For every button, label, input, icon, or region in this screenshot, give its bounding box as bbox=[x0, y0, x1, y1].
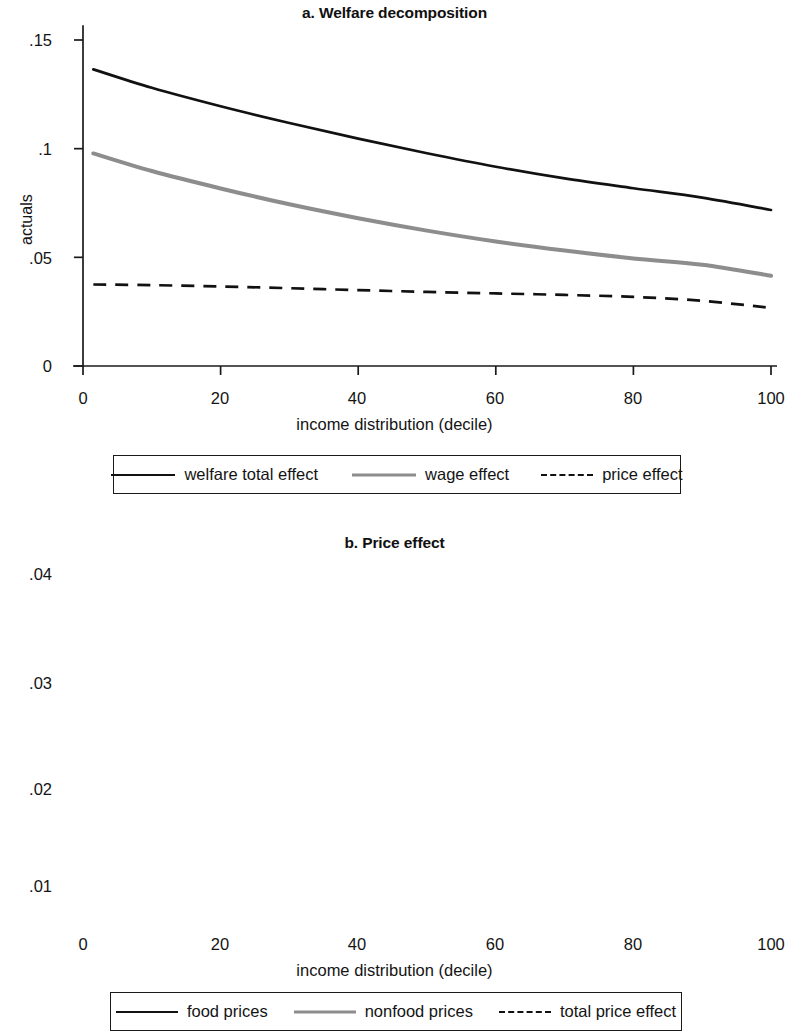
panel-a-legend-item-welfare-total-effect: welfare total effect bbox=[111, 465, 318, 484]
panel-a-ytick-0: .15 bbox=[0, 31, 52, 50]
panel-b-legend-label-0: food prices bbox=[187, 1002, 268, 1021]
panel-a-ytick-2: .05 bbox=[0, 249, 52, 268]
panel-b-xtick-3: 60 bbox=[465, 935, 525, 954]
solid-gray-line-swatch-icon bbox=[352, 468, 416, 482]
panel-a-xtick-5: 100 bbox=[741, 389, 789, 408]
panel-b-ytick-3: .01 bbox=[0, 877, 52, 896]
panel-b-xtick-2: 40 bbox=[327, 935, 387, 954]
panel-b-legend-item-total-price-effect: total price effect bbox=[499, 1002, 676, 1021]
panel-b-xtick-0: 0 bbox=[53, 935, 113, 954]
panel-b-ytick-2: .02 bbox=[0, 780, 52, 799]
panel-b-title: b. Price effect bbox=[0, 534, 789, 552]
panel-b-x-axis-label: income distribution (decile) bbox=[0, 961, 789, 980]
panel-a-legend-item-wage-effect: wage effect bbox=[352, 465, 509, 484]
panel-a-xtick-1: 20 bbox=[190, 389, 250, 408]
panel-b-xtick-4: 80 bbox=[603, 935, 663, 954]
panel-b-plot-area bbox=[0, 558, 789, 998]
panel-price-effect: b. Price effect actuals .04 .03 .02 .01 … bbox=[0, 515, 789, 1033]
panel-a-xtick-2: 40 bbox=[327, 389, 387, 408]
panel-b-xtick-1: 20 bbox=[190, 935, 250, 954]
solid-gray-line-swatch-icon bbox=[294, 1005, 356, 1019]
panel-a-legend-label-2: price effect bbox=[602, 465, 682, 484]
panel-b-legend: food prices nonfood prices total price e… bbox=[110, 992, 682, 1031]
panel-a-xtick-4: 80 bbox=[603, 389, 663, 408]
dashed-black-line-swatch-icon bbox=[499, 1005, 551, 1019]
panel-b-legend-item-nonfood-prices: nonfood prices bbox=[294, 1002, 473, 1021]
panel-b-legend-label-1: nonfood prices bbox=[365, 1002, 473, 1021]
panel-a-ytick-3: 0 bbox=[0, 357, 52, 376]
panel-b-ytick-0: .04 bbox=[0, 565, 52, 584]
panel-a-plot-area bbox=[0, 0, 789, 440]
panel-b-legend-item-food-prices: food prices bbox=[116, 1002, 268, 1021]
panel-a-xtick-3: 60 bbox=[465, 389, 525, 408]
solid-black-line-swatch-icon bbox=[116, 1005, 178, 1019]
panel-a-legend-label-1: wage effect bbox=[425, 465, 509, 484]
panel-a-legend: welfare total effect wage effect price e… bbox=[113, 455, 681, 494]
panel-b-xtick-5: 100 bbox=[741, 935, 789, 954]
dashed-black-line-swatch-icon bbox=[541, 468, 593, 482]
panel-welfare-decomposition: a. Welfare decomposition actuals .15 .1 … bbox=[0, 0, 789, 515]
panel-b-legend-label-2: total price effect bbox=[560, 1002, 676, 1021]
panel-a-ytick-1: .1 bbox=[0, 140, 52, 159]
panel-a-xtick-0: 0 bbox=[53, 389, 113, 408]
panel-a-x-axis-label: income distribution (decile) bbox=[0, 415, 789, 434]
panel-a-legend-label-0: welfare total effect bbox=[184, 465, 318, 484]
panel-b-ytick-1: .03 bbox=[0, 674, 52, 693]
solid-black-line-swatch-icon bbox=[111, 468, 175, 482]
panel-a-legend-item-price-effect: price effect bbox=[541, 465, 682, 484]
